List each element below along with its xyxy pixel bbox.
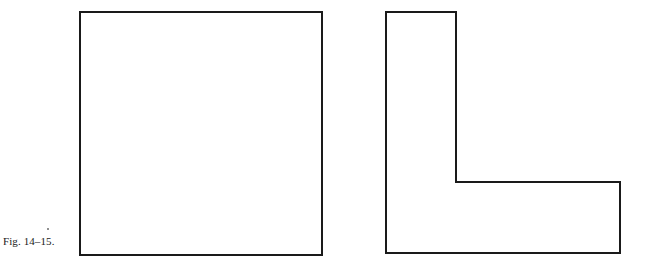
- stray-speck-mark: [47, 228, 49, 230]
- figure-container: Fig. 14–15.: [0, 0, 648, 268]
- figure-drawing: [0, 0, 648, 268]
- figure-background: [0, 0, 648, 268]
- figure-caption: Fig. 14–15.: [3, 234, 55, 248]
